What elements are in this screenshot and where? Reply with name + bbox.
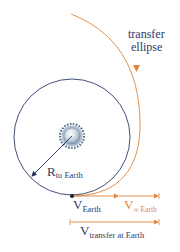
v-transfer-label-sub: transfer at Earth bbox=[89, 230, 144, 240]
transfer-direction-arrow-icon bbox=[133, 65, 140, 72]
v-transfer-label: Vtransfer at Earth bbox=[80, 223, 145, 240]
radius-label: Rto Earth bbox=[47, 164, 84, 180]
transfer-ellipse-label-line2: ellipse bbox=[131, 40, 162, 54]
hohmann-transfer-diagram: transfer ellipse Rto Earth VEarth V∞ Ear… bbox=[0, 0, 180, 252]
radius-label-main: R bbox=[47, 164, 56, 179]
transfer-ellipse-label-line1: transfer bbox=[128, 27, 165, 41]
v-earth-label-sub: Earth bbox=[82, 204, 101, 214]
v-infinity-label-sub: ∞ Earth bbox=[133, 205, 157, 214]
v-earth-label: VEarth bbox=[73, 197, 102, 214]
radius-label-sub: to Earth bbox=[56, 170, 84, 180]
v-infinity-label: V∞ Earth bbox=[124, 197, 157, 214]
transfer-ellipse-arc bbox=[71, 14, 140, 196]
